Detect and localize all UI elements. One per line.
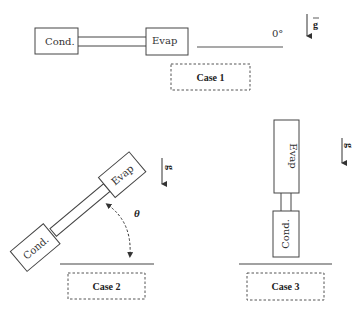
case2-angle-label: θ bbox=[134, 207, 140, 219]
case2-angle-arc bbox=[108, 205, 130, 255]
case1-evaporator-label: Evap bbox=[152, 35, 177, 46]
heat-pipe-diagram: Cond. Evap 0° g Case 1 Cond. Evap θ g Ca… bbox=[0, 0, 357, 315]
case1-gravity-label: g bbox=[313, 19, 318, 30]
case2-tube bbox=[50, 184, 110, 237]
case1-angle-label: 0° bbox=[272, 28, 283, 39]
case1-label: Case 1 bbox=[196, 72, 224, 83]
case3-group: Evap Cond. g Case 3 bbox=[239, 120, 355, 300]
case1-group: Cond. Evap 0° g Case 1 bbox=[35, 14, 319, 90]
case2-group: Cond. Evap θ g Case 2 bbox=[10, 152, 176, 299]
case2-label: Case 2 bbox=[92, 281, 120, 292]
case3-gravity-label: g bbox=[344, 143, 355, 148]
case3-condenser-label: Cond. bbox=[280, 219, 291, 249]
case2-gravity-label: g bbox=[165, 165, 176, 170]
case1-condenser-label: Cond. bbox=[45, 36, 75, 47]
case3-evaporator-label: Evap bbox=[288, 143, 299, 168]
case3-label: Case 3 bbox=[271, 281, 299, 292]
